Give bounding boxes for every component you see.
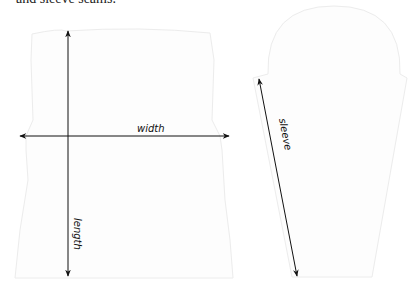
body-piece bbox=[15, 29, 233, 278]
garment-diagram: length width sleeve bbox=[0, 0, 418, 289]
length-label: length bbox=[72, 218, 83, 250]
width-label: width bbox=[137, 123, 165, 134]
sleeve-piece bbox=[253, 6, 407, 277]
